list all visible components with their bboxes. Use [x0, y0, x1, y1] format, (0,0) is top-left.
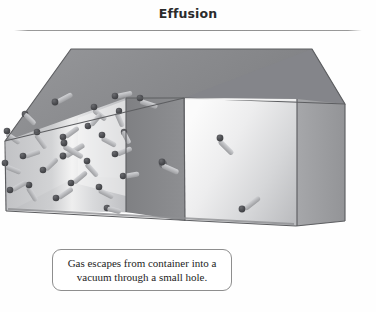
partition-wall — [126, 98, 185, 221]
page-title: Effusion — [0, 6, 376, 22]
title-divider-rule — [14, 30, 362, 31]
title-block: Effusion — [0, 6, 376, 22]
caption-text: Gas escapes from container into a vacuum… — [68, 256, 217, 284]
caption-line-1: Gas escapes from container into a — [68, 256, 217, 270]
figure-root: Effusion — [0, 0, 376, 312]
caption-line-2: vacuum through a small hole. — [68, 270, 217, 284]
box-right-end-face — [297, 99, 345, 226]
caption-callout-box: Gas escapes from container into a vacuum… — [52, 249, 232, 291]
effusion-illustration — [0, 36, 376, 251]
container-diagram-svg — [0, 36, 376, 251]
